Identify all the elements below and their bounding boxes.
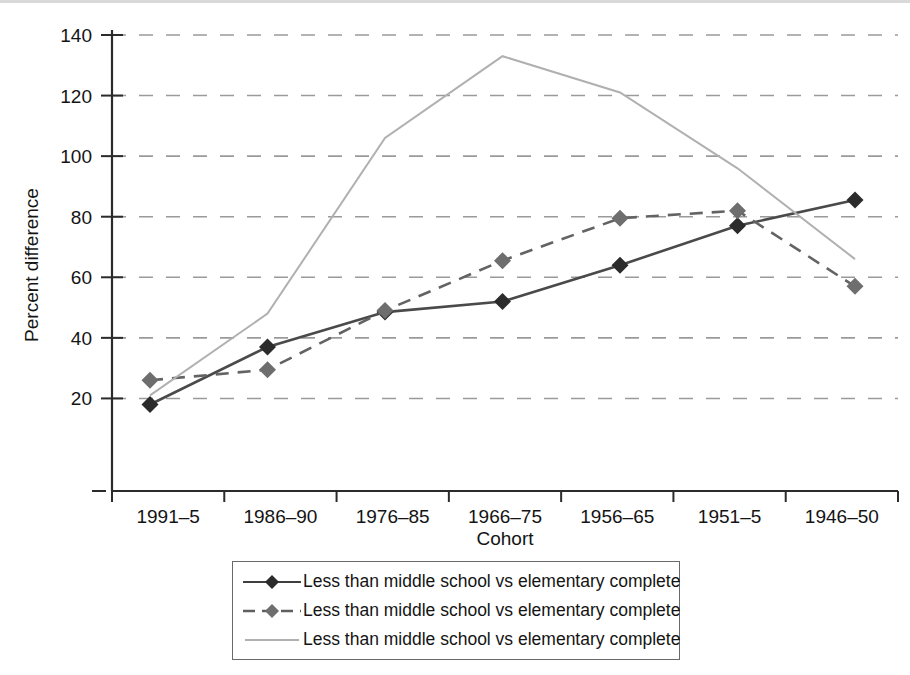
series-group (142, 56, 864, 413)
legend-item[interactable]: Less than middle school vs elementary co… (241, 625, 679, 654)
series-marker-diamond (729, 217, 746, 234)
y-axis-tick-label: 80 (71, 207, 92, 228)
legend-item-label: Less than middle school vs elementary co… (303, 602, 680, 620)
series-marker-diamond (847, 278, 864, 295)
x-axis-tick-label: 1956–65 (580, 506, 654, 527)
legend-item[interactable]: Less than middle school vs elementary co… (241, 596, 679, 625)
y-axis-tick-label: 100 (60, 146, 92, 167)
x-axis-tick-label: 1951–5 (698, 506, 761, 527)
series-marker-diamond (142, 372, 159, 389)
y-axis-tick-label: 140 (60, 25, 92, 46)
x-axis-tick-label: 1946–50 (805, 506, 879, 527)
legend-item[interactable]: Less than middle school vs elementary co… (241, 567, 679, 596)
legend-item-label: Less than middle school vs elementary co… (303, 631, 680, 649)
y-axis-tick-label: 60 (71, 267, 92, 288)
x-axis-tick-label: 1976–85 (356, 506, 430, 527)
y-axis-tick-label: 20 (71, 388, 92, 409)
gridlines (92, 35, 898, 491)
chart-legend: Less than middle school vs elementary co… (232, 561, 680, 660)
y-axis-title: Percent difference (21, 188, 42, 342)
series-marker-diamond (494, 293, 511, 310)
legend-marker-thin-line-icon (241, 627, 303, 653)
line-chart-plot: 20406080100120140 1991–51986–901976–8519… (0, 0, 910, 560)
x-axis: 1991–51986–901976–851966–751956–651951–5… (112, 491, 898, 527)
chart-figure: 20406080100120140 1991–51986–901976–8519… (0, 0, 910, 675)
y-axis-tick-label: 120 (60, 86, 92, 107)
x-axis-tick-label: 1986–90 (243, 506, 317, 527)
legend-marker-solid-diamond-icon (241, 569, 303, 595)
series-marker-diamond (259, 361, 276, 378)
series-marker-diamond (259, 338, 276, 355)
legend-marker-dashed-diamond-icon (241, 598, 303, 624)
series-marker-diamond (377, 302, 394, 319)
x-axis-tick-label: 1966–75 (468, 506, 542, 527)
legend-item-label: Less than middle school vs elementary co… (303, 573, 680, 591)
series-marker-diamond (612, 210, 629, 227)
y-axis: 20406080100120140 (60, 25, 123, 491)
x-axis-tick-label: 1991–5 (136, 506, 199, 527)
y-axis-tick-label: 40 (71, 328, 92, 349)
series-marker-diamond (612, 257, 629, 274)
series-marker-diamond (494, 252, 511, 269)
x-axis-title: Cohort (476, 528, 534, 549)
series-line (150, 56, 855, 395)
series-marker-diamond (847, 192, 864, 209)
